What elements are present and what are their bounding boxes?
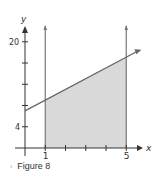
shaded-region xyxy=(45,58,126,148)
arrow-up-icon xyxy=(43,25,47,30)
y-tick-label: 20 xyxy=(9,38,19,47)
caption-marker-icon: › xyxy=(10,163,12,170)
x-axis-label: x xyxy=(145,143,152,153)
y-axis-label: y xyxy=(20,14,27,24)
x-tick-label: 5 xyxy=(124,151,130,160)
x-axis-arrow-icon xyxy=(137,145,143,151)
figure-caption: ›Figure 8 xyxy=(10,161,50,171)
y-tick-label: 4 xyxy=(15,123,20,132)
caption-text: Figure 8 xyxy=(17,161,50,171)
figure-graph: yx15204 xyxy=(0,0,165,160)
y-axis-arrow-icon xyxy=(22,26,28,33)
line-arrow-icon xyxy=(134,49,141,54)
arrow-up-icon xyxy=(124,25,128,30)
x-tick-label: 1 xyxy=(43,151,49,160)
